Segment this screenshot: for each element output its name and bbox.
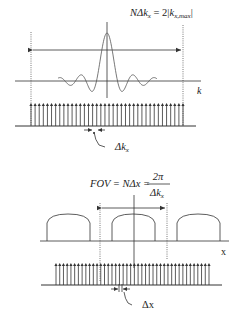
impulse-arrowhead-icon — [112, 103, 115, 106]
dk-label-sub: x — [125, 146, 130, 154]
impulse-arrowhead-icon — [149, 103, 152, 106]
impulse-arrowhead-icon — [159, 263, 162, 266]
impulse-arrowhead-icon — [99, 263, 102, 266]
impulse-arrowhead-icon — [161, 103, 164, 106]
dx-label: Δx — [142, 299, 155, 310]
impulse-arrowhead-icon — [73, 263, 76, 266]
impulse-arrowhead-icon — [103, 103, 106, 106]
object-replica-right — [177, 214, 220, 241]
impulse-arrowhead-icon — [66, 103, 69, 106]
impulse-arrowhead-icon — [153, 103, 156, 106]
impulse-arrowhead-icon — [200, 263, 203, 266]
impulse-arrowhead-icon — [69, 263, 72, 266]
eq-lhs: NΔk — [129, 7, 148, 18]
impulse-arrowhead-icon — [173, 103, 176, 106]
impulse-arrowhead-icon — [192, 263, 195, 266]
impulse-arrowhead-icon — [124, 103, 127, 106]
k-sampling-comb — [29, 103, 184, 126]
impulse-arrowhead-icon — [148, 263, 151, 266]
impulse-arrowhead-icon — [91, 103, 94, 106]
impulse-arrowhead-icon — [54, 103, 57, 106]
impulse-arrowhead-icon — [185, 263, 188, 266]
impulse-arrowhead-icon — [178, 263, 181, 266]
impulse-arrowhead-icon — [88, 263, 91, 266]
impulse-arrowhead-icon — [77, 263, 80, 266]
x-axis-label: x — [221, 246, 226, 257]
impulse-arrowhead-icon — [79, 103, 82, 106]
impulse-arrowhead-icon — [151, 263, 154, 266]
eq-rhs-sub: x,max — [173, 12, 191, 20]
impulse-arrowhead-icon — [125, 263, 128, 266]
impulse-arrowhead-icon — [114, 263, 117, 266]
dk-label-main: Δk — [114, 141, 126, 152]
impulse-arrowhead-icon — [133, 263, 136, 266]
impulse-arrowhead-icon — [54, 263, 57, 266]
impulse-arrowhead-icon — [140, 103, 143, 106]
k-axis-label: k — [197, 85, 202, 96]
impulse-arrowhead-icon — [29, 103, 32, 106]
impulse-arrowhead-icon — [70, 103, 73, 106]
impulse-arrowhead-icon — [62, 263, 65, 266]
bottom-panel-image-space: FOV = NΔx = 2π Δkx x Δx — [40, 171, 229, 310]
impulse-arrowhead-icon — [38, 103, 41, 106]
impulse-arrowhead-icon — [107, 263, 110, 266]
impulse-arrowhead-icon — [62, 103, 65, 106]
impulse-arrowhead-icon — [136, 103, 139, 106]
fov-den-sub: x — [160, 192, 165, 200]
impulse-arrowhead-icon — [84, 263, 87, 266]
impulse-arrowhead-icon — [83, 103, 86, 106]
impulse-arrowhead-icon — [165, 103, 168, 106]
impulse-arrowhead-icon — [103, 263, 106, 266]
sampling-diagram: NΔkx = 2|kx,max| k Δkx FOV = NΔx = 2π — [0, 0, 240, 315]
eq-equals: = 2 — [151, 7, 167, 18]
x-sampling-comb — [54, 263, 210, 285]
impulse-arrowhead-icon — [42, 103, 45, 106]
dk-label: Δkx — [114, 141, 130, 154]
impulse-arrowhead-icon — [99, 103, 102, 106]
impulse-arrowhead-icon — [181, 103, 184, 106]
impulse-arrowhead-icon — [75, 103, 78, 106]
object-replica-left — [47, 214, 90, 241]
impulse-arrowhead-icon — [50, 103, 53, 106]
impulse-arrowhead-icon — [116, 103, 119, 106]
impulse-arrowhead-icon — [120, 103, 123, 106]
impulse-arrowhead-icon — [163, 263, 166, 266]
impulse-arrowhead-icon — [95, 263, 98, 266]
impulse-arrowhead-icon — [170, 263, 173, 266]
dx-leader-line — [124, 292, 132, 305]
impulse-arrowhead-icon — [155, 263, 158, 266]
dk-leader-dot — [93, 132, 95, 134]
impulse-arrowhead-icon — [107, 103, 110, 106]
impulse-arrowhead-icon — [92, 263, 95, 266]
impulse-arrowhead-icon — [204, 263, 207, 266]
impulse-arrowhead-icon — [34, 103, 37, 106]
impulse-arrowhead-icon — [196, 263, 199, 266]
fov-equation-numerator: 2π — [153, 171, 164, 182]
fov-den-main: Δk — [149, 187, 161, 198]
impulse-arrowhead-icon — [58, 103, 61, 106]
top-panel-kspace: NΔkx = 2|kx,max| k Δkx — [15, 7, 202, 154]
impulse-arrowhead-icon — [144, 103, 147, 106]
impulse-arrowhead-icon — [136, 263, 139, 266]
impulse-arrowhead-icon — [58, 263, 61, 266]
fov-equation-denominator: Δkx — [149, 187, 165, 200]
impulse-arrowhead-icon — [66, 263, 69, 266]
impulse-arrowhead-icon — [157, 103, 160, 106]
impulse-arrowhead-icon — [87, 103, 90, 106]
top-equation: NΔkx = 2|kx,max| — [129, 7, 193, 20]
eq-abs-close: | — [191, 7, 193, 18]
impulse-arrowhead-icon — [122, 263, 125, 266]
impulse-arrowhead-icon — [110, 263, 113, 266]
impulse-arrowhead-icon — [169, 103, 172, 106]
impulse-arrowhead-icon — [166, 263, 169, 266]
impulse-arrowhead-icon — [129, 263, 132, 266]
sinc-waveform — [58, 33, 157, 91]
impulse-arrowhead-icon — [128, 103, 131, 106]
impulse-arrowhead-icon — [177, 103, 180, 106]
impulse-arrowhead-icon — [140, 263, 143, 266]
impulse-arrowhead-icon — [189, 263, 192, 266]
impulse-arrowhead-icon — [132, 103, 135, 106]
object-replica-center — [112, 214, 155, 241]
impulse-arrowhead-icon — [174, 263, 177, 266]
impulse-arrowhead-icon — [81, 263, 84, 266]
